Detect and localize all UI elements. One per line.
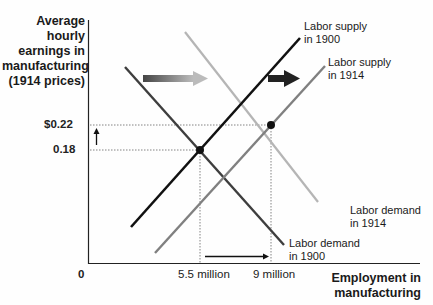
y-axis-label-line: Average hourly <box>2 14 85 44</box>
equilibrium-1900-point <box>196 146 204 154</box>
y-axis-label-line: manufacturing <box>2 59 85 74</box>
demand-shift-arrow-icon <box>143 71 208 86</box>
y-axis-label-line: earnings in <box>2 44 85 59</box>
label-line: Labor demand <box>289 237 360 250</box>
employment-rise-arrow-icon <box>205 254 269 260</box>
y-tick-high: $0.22 <box>44 118 73 130</box>
labor-demand-1914-curve <box>185 32 318 202</box>
label-supply-1914: Labor supply in 1914 <box>328 56 391 82</box>
x-axis-label-line: Employment in <box>301 271 421 286</box>
supply-shift-arrow-icon <box>268 70 300 87</box>
label-line: in 1914 <box>328 69 391 82</box>
label-line: in 1900 <box>304 33 367 46</box>
label-line: Labor supply <box>328 56 391 69</box>
label-demand-1900: Labor demand in 1900 <box>289 237 360 263</box>
labor-supply-1900-curve <box>131 38 300 227</box>
label-line: Labor supply <box>304 20 367 33</box>
x-axis-label: Employment in manufacturing <box>301 271 421 301</box>
x-tick-low: 5.5 million <box>178 268 230 280</box>
y-axis-label: Average hourly earnings in manufacturing… <box>2 14 85 89</box>
label-line: in 1900 <box>289 250 360 263</box>
labor-demand-1900-curve <box>125 67 284 245</box>
guide-lines <box>90 125 271 263</box>
origin-label: 0 <box>78 268 84 280</box>
equilibrium-1914-point <box>267 121 275 129</box>
label-line: Labor demand <box>350 204 421 217</box>
x-axis-label-line: manufacturing <box>301 286 421 301</box>
y-tick-low: 0.18 <box>53 143 75 155</box>
label-line: in 1914 <box>350 217 421 230</box>
x-tick-high: 9 million <box>253 268 295 280</box>
wage-rise-arrow-icon <box>94 128 100 145</box>
labor-supply-1914-curve <box>155 66 325 253</box>
label-demand-1914: Labor demand in 1914 <box>350 204 421 230</box>
y-axis-label-line: (1914 prices) <box>2 74 85 89</box>
label-supply-1900: Labor supply in 1900 <box>304 20 367 46</box>
